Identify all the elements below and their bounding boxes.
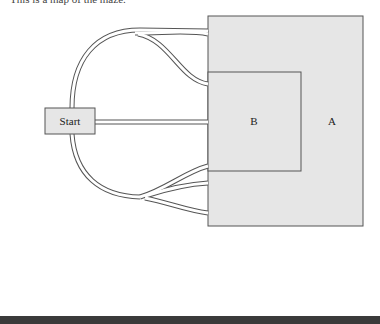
start-label: Start: [60, 115, 81, 127]
bottom-bar: [0, 316, 380, 324]
region-a-label: A: [328, 115, 336, 127]
maze-diagram: Start B A: [0, 0, 380, 324]
region-b-label: B: [250, 115, 257, 127]
